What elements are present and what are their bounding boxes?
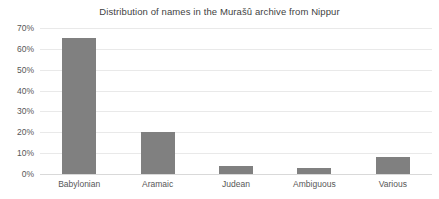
bar[interactable] xyxy=(297,168,331,174)
y-axis-tick-label: 70% xyxy=(0,23,34,33)
bar-slot xyxy=(354,28,432,174)
x-axis-tick-label: Judean xyxy=(197,179,275,189)
plot-area xyxy=(40,28,432,174)
bar[interactable] xyxy=(141,132,175,174)
x-axis-tick-label: Aramaic xyxy=(118,179,196,189)
y-axis-tick-label: 0% xyxy=(0,169,34,179)
bar[interactable] xyxy=(62,38,96,174)
gridline xyxy=(40,174,432,175)
y-axis-tick-label: 20% xyxy=(0,127,34,137)
y-axis-tick-label: 10% xyxy=(0,148,34,158)
chart-title: Distribution of names in the Murašû arch… xyxy=(0,6,439,17)
y-axis-tick-label: 30% xyxy=(0,106,34,116)
y-axis-tick-label: 60% xyxy=(0,44,34,54)
bar-slot xyxy=(197,28,275,174)
y-axis-tick-label: 50% xyxy=(0,65,34,75)
x-axis-tick-label: Babylonian xyxy=(40,179,118,189)
bar-slot xyxy=(118,28,196,174)
bar[interactable] xyxy=(219,166,253,174)
y-axis-tick-label: 40% xyxy=(0,86,34,96)
bar-slot xyxy=(275,28,353,174)
bar-chart: Distribution of names in the Murašû arch… xyxy=(0,0,439,199)
bar[interactable] xyxy=(376,157,410,174)
bar-slot xyxy=(40,28,118,174)
x-axis-tick-label: Various xyxy=(354,179,432,189)
x-axis-tick-label: Ambiguous xyxy=(275,179,353,189)
